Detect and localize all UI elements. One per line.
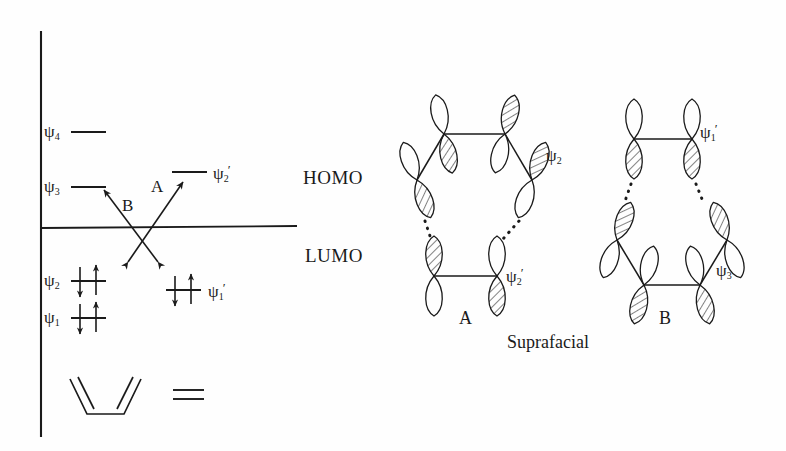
level-label-psi4: ψ4 bbox=[44, 123, 60, 142]
figure-canvas: ψ4 ψ3 ψ2 ψ1 ψ2′ ψ1′ A B HOMO LUMO ψ2 ψ2′… bbox=[0, 0, 786, 451]
energy-axes bbox=[41, 31, 297, 437]
diagram-artwork bbox=[0, 0, 786, 451]
interaction-arrow-label-b: B bbox=[122, 197, 133, 214]
overlap-bonds-a bbox=[425, 221, 519, 239]
orbital-label-a-homo: ψ2 bbox=[546, 147, 562, 166]
interaction-arrow-label-a: A bbox=[151, 178, 163, 195]
level-label-psi1: ψ1 bbox=[44, 309, 60, 328]
level-label-psi1-prime: ψ1′ bbox=[208, 281, 226, 302]
equals-sign-glyph bbox=[173, 390, 204, 399]
panel-caption-b: B bbox=[659, 309, 671, 327]
suprafacial-caption: Suprafacial bbox=[507, 333, 589, 351]
level-label-psi3: ψ3 bbox=[44, 178, 60, 197]
level-label-psi2: ψ2 bbox=[44, 272, 60, 291]
orbital-label-a-lumo: ψ2′ bbox=[506, 266, 524, 287]
orbital-diagram-b bbox=[596, 99, 749, 326]
row-label-homo: HOMO bbox=[303, 168, 363, 187]
level-label-psi2-prime: ψ2′ bbox=[213, 163, 231, 184]
row-label-lumo: LUMO bbox=[305, 246, 363, 265]
butadiene-structure bbox=[70, 377, 141, 414]
orbital-label-b-lumo: ψ3 bbox=[716, 262, 732, 281]
p-orbital-b-lumo-c1 bbox=[596, 200, 639, 281]
panel-caption-a: A bbox=[459, 309, 472, 327]
overlap-bonds-b bbox=[624, 184, 704, 204]
orbital-label-b-homo: ψ1′ bbox=[700, 122, 718, 143]
diene-skeleton-b bbox=[617, 240, 727, 285]
orbital-diagram-a bbox=[396, 93, 554, 316]
diene-skeleton-a bbox=[417, 134, 532, 180]
p-orbital-a-homo-c1 bbox=[396, 140, 439, 221]
